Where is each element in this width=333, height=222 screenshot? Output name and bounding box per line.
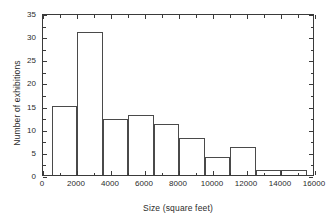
x-axis-tick (247, 15, 248, 19)
y-axis-minor-tick (311, 50, 314, 51)
y-axis-minor-tick (311, 96, 314, 97)
x-axis-tick (281, 171, 282, 175)
y-axis-tick-label: 10 (14, 125, 36, 134)
x-axis-tick (213, 15, 214, 19)
y-axis-minor-tick (43, 27, 46, 28)
y-axis-tick (43, 61, 47, 62)
x-axis-minor-tick (230, 173, 231, 176)
x-axis-tick (145, 171, 146, 175)
y-axis-tick (309, 177, 313, 178)
histogram-bar (230, 147, 256, 175)
y-axis-tick (43, 38, 47, 39)
x-axis-tick-label: 2000 (67, 179, 85, 188)
x-axis-tick (315, 171, 316, 175)
y-axis-tick (309, 154, 313, 155)
x-axis-minor-tick (128, 173, 129, 176)
x-axis-minor-tick (162, 173, 163, 176)
x-axis-tick (111, 15, 112, 19)
y-axis-tick (309, 38, 313, 39)
y-axis-tick (43, 84, 47, 85)
x-axis-tick (111, 171, 112, 175)
y-axis-minor-tick (43, 50, 46, 51)
y-axis-minor-tick (43, 73, 46, 74)
histogram-bar (77, 32, 103, 175)
histogram-bar (205, 157, 231, 176)
x-axis-minor-tick (94, 173, 95, 176)
x-axis-title: Size (square feet) (42, 203, 314, 213)
y-axis-tick (309, 108, 313, 109)
y-axis-tick-label: 15 (14, 102, 36, 111)
x-axis-tick (43, 171, 44, 175)
x-axis-minor-tick (162, 15, 163, 18)
histogram-bars (43, 15, 313, 175)
y-axis-tick-label: 20 (14, 79, 36, 88)
x-axis-minor-tick (298, 173, 299, 176)
x-axis-tick (179, 171, 180, 175)
y-axis-tick (309, 84, 313, 85)
y-axis-minor-tick (43, 96, 46, 97)
x-axis-tick-label: 0 (40, 179, 45, 188)
y-axis-tick (309, 61, 313, 62)
y-axis-minor-tick (43, 165, 46, 166)
x-axis-tick-label: 6000 (135, 179, 153, 188)
x-axis-tick-label: 12000 (235, 179, 258, 188)
x-axis-tick-label: 8000 (169, 179, 187, 188)
histogram-bar (128, 115, 154, 175)
x-axis-tick (77, 171, 78, 175)
y-axis-minor-tick (311, 142, 314, 143)
histogram-bar (103, 119, 129, 175)
x-axis-minor-tick (264, 173, 265, 176)
plot-area (42, 14, 314, 176)
y-axis-tick (43, 131, 47, 132)
histogram-bar (52, 106, 78, 175)
x-axis-tick-label: 16000 (303, 179, 326, 188)
y-axis-tick (43, 154, 47, 155)
histogram-figure: Number of exhibitions Size (square feet)… (0, 0, 333, 222)
x-axis-minor-tick (60, 173, 61, 176)
y-axis-tick-label: 25 (14, 56, 36, 65)
x-axis-tick (315, 15, 316, 19)
y-axis-tick-label: 35 (14, 10, 36, 19)
x-axis-minor-tick (128, 15, 129, 18)
y-axis-tick-label: 0 (14, 172, 36, 181)
y-axis-minor-tick (43, 142, 46, 143)
x-axis-tick (281, 15, 282, 19)
y-axis-minor-tick (43, 119, 46, 120)
x-axis-tick-label: 4000 (101, 179, 119, 188)
histogram-bar (154, 124, 180, 175)
x-axis-minor-tick (196, 173, 197, 176)
y-axis-minor-tick (311, 73, 314, 74)
y-axis-tick (43, 15, 47, 16)
histogram-bar (179, 138, 205, 175)
y-axis-tick (309, 15, 313, 16)
y-axis-tick (309, 131, 313, 132)
y-axis-tick-label: 30 (14, 33, 36, 42)
x-axis-tick-label: 10000 (201, 179, 224, 188)
x-axis-tick (213, 171, 214, 175)
y-axis-tick-label: 5 (14, 148, 36, 157)
y-axis-minor-tick (311, 119, 314, 120)
x-axis-tick (247, 171, 248, 175)
x-axis-tick-label: 14000 (269, 179, 292, 188)
y-axis-minor-tick (311, 165, 314, 166)
x-axis-minor-tick (230, 15, 231, 18)
y-axis-tick (43, 177, 47, 178)
x-axis-minor-tick (264, 15, 265, 18)
x-axis-tick (179, 15, 180, 19)
x-axis-minor-tick (94, 15, 95, 18)
y-axis-minor-tick (311, 27, 314, 28)
x-axis-minor-tick (196, 15, 197, 18)
histogram-bar (256, 170, 282, 175)
x-axis-minor-tick (60, 15, 61, 18)
x-axis-tick (77, 15, 78, 19)
x-axis-tick (145, 15, 146, 19)
y-axis-tick (43, 108, 47, 109)
x-axis-minor-tick (298, 15, 299, 18)
histogram-bar (281, 170, 307, 175)
